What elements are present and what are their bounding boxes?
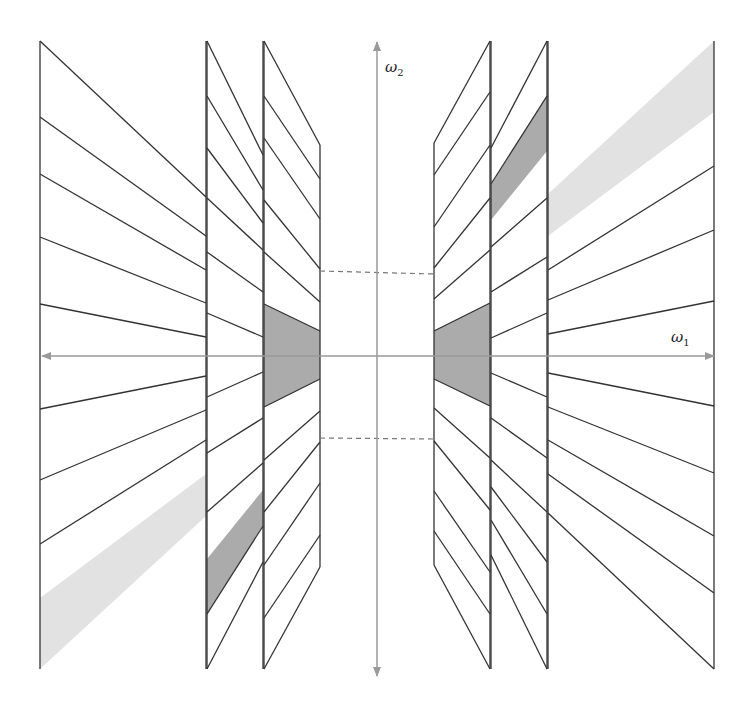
right-half-tiling	[434, 41, 714, 669]
dark-band-left	[207, 490, 263, 615]
light-band-left	[40, 474, 206, 669]
left-half-tiling	[40, 41, 320, 669]
omega2-label: ω2	[385, 58, 404, 78]
frequency-tiling-diagram	[0, 0, 756, 704]
omega1-label: ω1	[671, 328, 690, 348]
